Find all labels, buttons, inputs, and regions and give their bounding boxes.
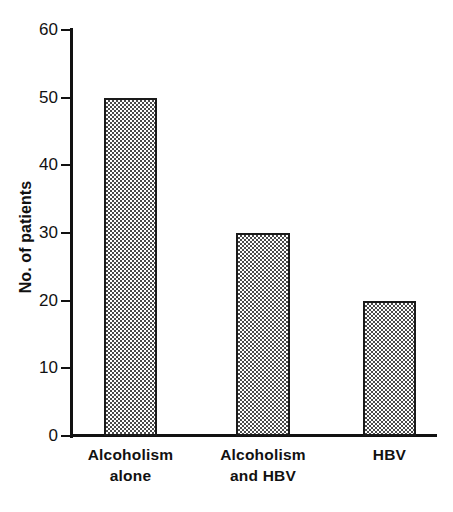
plot-area bbox=[72, 30, 437, 436]
bar-chart-figure: No. of patients 0102030405060 Alcoholism… bbox=[0, 0, 453, 512]
bar bbox=[104, 98, 157, 436]
y-axis-tick-label: 0 bbox=[14, 427, 58, 444]
category-label-line: Alcoholism bbox=[193, 444, 333, 465]
y-axis-tick bbox=[61, 435, 71, 437]
y-axis-tick-label: 20 bbox=[14, 292, 58, 309]
y-axis-tick-label: 60 bbox=[14, 21, 58, 38]
y-axis-tick-label: 50 bbox=[14, 89, 58, 106]
x-axis-category-label: Alcoholismalone bbox=[61, 444, 201, 486]
category-label-line: alone bbox=[61, 465, 201, 486]
category-label-line: and HBV bbox=[193, 465, 333, 486]
x-axis-category-label: Alcoholismand HBV bbox=[193, 444, 333, 486]
y-axis-tick bbox=[61, 164, 71, 166]
y-axis-tick bbox=[61, 232, 71, 234]
y-axis-tick bbox=[61, 300, 71, 302]
y-axis-tick-label: 10 bbox=[14, 359, 58, 376]
bar bbox=[363, 301, 416, 436]
bar bbox=[236, 233, 290, 436]
y-axis-tick bbox=[61, 29, 71, 31]
y-axis-tick-label: 40 bbox=[14, 156, 58, 173]
y-axis-tick bbox=[61, 97, 71, 99]
y-axis-tick-label: 30 bbox=[14, 224, 58, 241]
category-label-line: HBV bbox=[320, 444, 453, 465]
category-label-line: Alcoholism bbox=[61, 444, 201, 465]
y-axis-tick bbox=[61, 367, 71, 369]
x-axis-category-label: HBV bbox=[320, 444, 453, 465]
